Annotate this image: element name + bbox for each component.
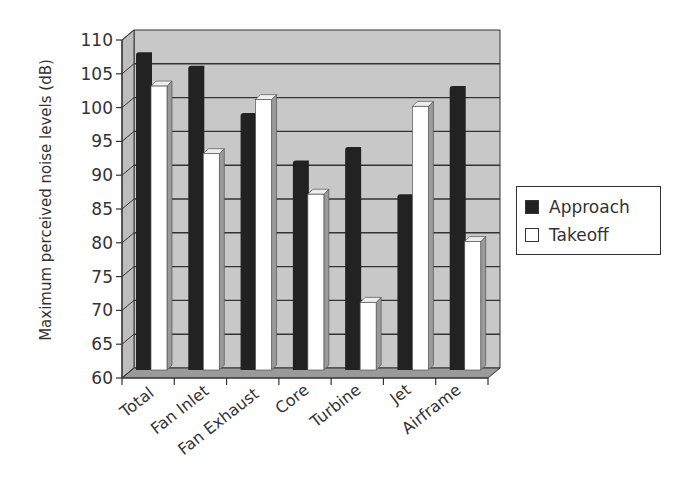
y-tick-label: 95 [91,131,113,151]
bar-approach [345,147,361,370]
legend-item-takeoff: Takeoff [525,224,609,246]
bar-takeoff [203,149,224,370]
y-tick-label: 75 [91,267,113,287]
y-tick-label: 105 [81,64,113,84]
bar-takeoff [151,81,172,370]
x-axis-labels: TotalFan InletFan ExhaustCoreTurbineJetA… [116,378,488,459]
bar-takeoff [256,95,277,370]
y-tick-label: 100 [81,98,113,118]
legend-label-approach: Approach [549,197,630,217]
y-axis-title-text: Maximum perceived noise levels (dB) [37,59,55,341]
y-tick-label: 85 [91,199,113,219]
legend-label-takeoff: Takeoff [549,225,609,245]
bar-takeoff [412,101,433,370]
x-tick-label: Jet [386,380,415,408]
y-tick-label: 80 [91,233,113,253]
bar-approach [136,52,152,370]
y-tick-label: 60 [91,368,113,388]
y-tick-label: 70 [91,300,113,320]
legend-swatch-takeoff [525,228,539,242]
x-tick-label: Total [116,383,158,422]
bar-approach [293,160,309,370]
bar-takeoff [360,297,381,370]
y-tick-label: 110 [81,30,113,50]
y-tick-label: 90 [91,165,113,185]
legend-swatch-approach [525,200,539,214]
x-tick-label: Turbine [306,380,365,432]
bar-approach [397,194,413,370]
x-tick-label: Core [272,380,313,418]
bar-approach [241,113,257,370]
chart-legend: Approach Takeoff [516,186,661,255]
bar-approach [188,66,204,370]
legend-item-approach: Approach [525,196,630,218]
bar-approach [450,86,466,370]
y-tick-label: 65 [91,334,113,354]
bar-takeoff [308,189,329,370]
bar-takeoff [465,237,486,370]
